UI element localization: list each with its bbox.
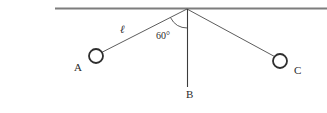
string-right-line (187, 9, 275, 57)
diagram-canvas: A B C 60° ℓ (0, 0, 327, 113)
ball-c-label: C (294, 65, 301, 76)
ball-a-label: A (74, 62, 82, 73)
angle-arc-path (171, 18, 188, 28)
string-left-line (102, 9, 188, 53)
string-length-label: ℓ (120, 24, 125, 35)
angle-label: 60° (156, 31, 170, 41)
ball-c-circle (273, 54, 287, 68)
pendulum-diagram-svg (0, 0, 327, 113)
ball-a-circle (89, 49, 103, 63)
ball-b-label: B (186, 89, 193, 100)
